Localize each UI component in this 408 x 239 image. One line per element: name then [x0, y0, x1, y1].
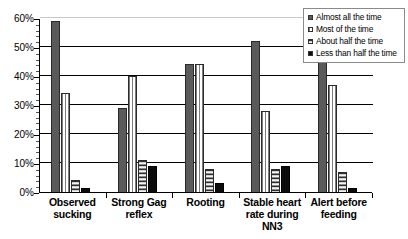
bar-group	[251, 18, 290, 192]
x-tick-mark	[372, 193, 373, 198]
legend-item-label: Almost all the time	[316, 13, 382, 22]
y-tick-label: 40%	[0, 72, 34, 82]
y-tick-mark	[34, 193, 39, 194]
chart-legend: Almost all the timeMost of the timeAbout…	[303, 8, 405, 63]
legend-swatch-icon	[308, 15, 313, 20]
bar	[61, 93, 70, 192]
y-tick-label: 30%	[0, 101, 34, 111]
bar	[328, 85, 337, 192]
legend-item-label: Less than half the time	[316, 49, 397, 58]
bar-chart: 0%10%20%30%40%50%60% ObservedsuckingStro…	[0, 0, 408, 239]
bar	[51, 21, 60, 192]
legend-item[interactable]: Most of the time	[308, 24, 401, 35]
y-tick-label: 10%	[0, 159, 34, 169]
y-tick-label: 0%	[0, 188, 34, 198]
bar-group	[118, 18, 157, 192]
legend-item-label: About half the time	[316, 37, 383, 46]
bar	[251, 41, 260, 192]
y-tick-label: 60%	[0, 14, 34, 24]
bar	[348, 188, 357, 192]
bar	[195, 64, 204, 192]
bar	[338, 172, 347, 192]
x-tick-label: Stable heartrate duringNN3	[239, 196, 306, 232]
legend-swatch-icon	[308, 39, 313, 44]
x-tick-label: Rooting	[172, 196, 239, 208]
legend-item[interactable]: Less than half the time	[308, 48, 401, 59]
bar-group	[51, 18, 90, 192]
bar	[71, 180, 80, 192]
legend-swatch-icon	[308, 27, 313, 32]
legend-swatch-icon	[308, 51, 313, 56]
bar	[138, 160, 147, 192]
bar	[185, 64, 194, 192]
x-tick-label: Alert beforefeeding	[305, 196, 372, 220]
bar	[128, 76, 137, 192]
y-tick-label: 50%	[0, 43, 34, 53]
legend-item[interactable]: Almost all the time	[308, 12, 401, 23]
x-tick-label: Strong Gagreflex	[106, 196, 173, 220]
bar	[118, 108, 127, 192]
bar	[205, 169, 214, 192]
bar	[271, 169, 280, 192]
bar-group	[185, 18, 224, 192]
bar	[81, 188, 90, 192]
bar	[261, 111, 270, 192]
bar	[148, 166, 157, 192]
x-tick-label: Observedsucking	[39, 196, 106, 220]
bar	[281, 166, 290, 192]
legend-item[interactable]: About half the time	[308, 36, 401, 47]
legend-item-label: Most of the time	[316, 25, 373, 34]
bar	[215, 183, 224, 192]
y-tick-label: 20%	[0, 130, 34, 140]
